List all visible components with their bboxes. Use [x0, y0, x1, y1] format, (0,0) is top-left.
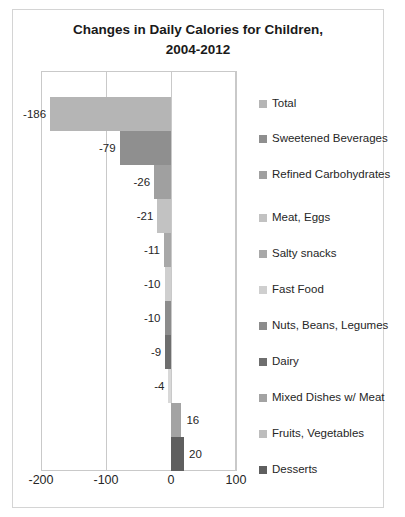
- bar-value-label: 16: [186, 403, 199, 437]
- x-axis-tick-label: -200: [28, 473, 53, 487]
- legend-item[interactable]: Meat, Eggs: [259, 211, 330, 225]
- legend-item[interactable]: Fruits, Vegetables: [259, 427, 364, 441]
- x-axis-tick-label: 100: [226, 473, 247, 487]
- bar-value-label: -9: [151, 335, 161, 369]
- bar-value-label: -186: [23, 97, 46, 131]
- chart-frame: Changes in Daily Calories for Children, …: [12, 9, 384, 508]
- legend-item[interactable]: Desserts: [259, 463, 317, 477]
- legend-item[interactable]: Sweetened Beverages: [259, 132, 388, 146]
- bar-value-label: -79: [99, 131, 116, 165]
- x-axis-tick-label: -100: [93, 473, 118, 487]
- legend-item-label: Sweetened Beverages: [272, 132, 388, 146]
- legend-item-label: Fruits, Vegetables: [272, 427, 364, 441]
- legend-item-label: Refined Carbohydrates: [272, 168, 390, 182]
- legend-swatch-icon: [259, 214, 267, 222]
- plot-area: -186-79-26-21-11-10-10-9-41620: [41, 71, 236, 471]
- data-labels: -186-79-26-21-11-10-10-9-41620: [41, 71, 236, 471]
- bar-value-label: -10: [144, 301, 161, 335]
- legend-swatch-icon: [259, 171, 267, 179]
- legend-item[interactable]: Refined Carbohydrates: [259, 168, 390, 182]
- legend-item[interactable]: Total: [259, 97, 296, 111]
- legend-item[interactable]: Salty snacks: [259, 247, 337, 261]
- legend-swatch-icon: [259, 430, 267, 438]
- legend-item-label: Meat, Eggs: [272, 211, 330, 225]
- gridline: [236, 71, 237, 471]
- legend-swatch-icon: [259, 466, 267, 474]
- legend-swatch-icon: [259, 358, 267, 366]
- bar-value-label: 20: [189, 437, 202, 471]
- bar-value-label: -21: [137, 199, 154, 233]
- legend-swatch-icon: [259, 250, 267, 258]
- bar-value-label: -26: [133, 165, 150, 199]
- legend-item-label: Desserts: [272, 463, 317, 477]
- x-axis: -200-1000100: [41, 473, 236, 495]
- x-axis-tick-label: 0: [168, 473, 175, 487]
- legend-item-label: Fast Food: [272, 283, 324, 297]
- bar-value-label: -11: [144, 233, 160, 267]
- legend-swatch-icon: [259, 286, 267, 294]
- bar-value-label: -10: [144, 267, 161, 301]
- bar-value-label: -4: [154, 369, 164, 403]
- legend-item-label: Dairy: [272, 355, 299, 369]
- chart-title: Changes in Daily Calories for Children, …: [33, 20, 363, 60]
- legend-item-label: Mixed Dishes w/ Meat: [272, 391, 384, 405]
- legend-swatch-icon: [259, 394, 267, 402]
- legend-item[interactable]: Mixed Dishes w/ Meat: [259, 391, 384, 405]
- chart-title-line-2: 2004-2012: [33, 40, 363, 60]
- legend-item-label: Total: [272, 97, 296, 111]
- legend-swatch-icon: [259, 100, 267, 108]
- legend-item[interactable]: Dairy: [259, 355, 299, 369]
- legend-item-label: Nuts, Beans, Legumes: [272, 319, 388, 333]
- legend-swatch-icon: [259, 135, 267, 143]
- legend-swatch-icon: [259, 322, 267, 330]
- chart-title-line-1: Changes in Daily Calories for Children,: [33, 20, 363, 40]
- legend-item[interactable]: Fast Food: [259, 283, 324, 297]
- legend-item-label: Salty snacks: [272, 247, 337, 261]
- legend-item[interactable]: Nuts, Beans, Legumes: [259, 319, 388, 333]
